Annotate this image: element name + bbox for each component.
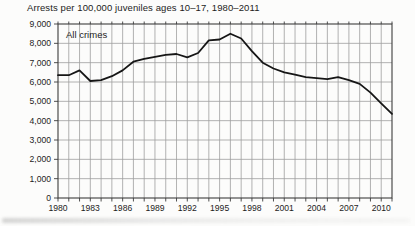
y-tick-label: 6,000 xyxy=(29,77,51,87)
y-tick-label: 7,000 xyxy=(29,58,51,68)
figure: Arrests per 100,000 juveniles ages 10–17… xyxy=(0,0,415,226)
y-tick-label: 3,000 xyxy=(29,135,51,145)
y-tick-label: 0 xyxy=(46,193,51,203)
y-tick-label: 4,000 xyxy=(29,116,51,126)
x-tick-label: 1995 xyxy=(210,203,229,213)
all-crimes-line xyxy=(58,34,392,114)
y-tick-label: 2,000 xyxy=(29,154,51,164)
x-tick-label: 2004 xyxy=(307,203,326,213)
x-tick-label: 2007 xyxy=(339,203,358,213)
line-chart: 01,0002,0003,0004,0005,0006,0007,0008,00… xyxy=(0,0,415,226)
series-label: All crimes xyxy=(66,29,107,40)
x-tick-label: 1980 xyxy=(48,203,67,213)
x-tick-label: 1998 xyxy=(242,203,261,213)
x-tick-label: 1992 xyxy=(178,203,197,213)
x-tick-label: 1989 xyxy=(145,203,164,213)
plot-frame xyxy=(58,24,392,198)
x-tick-label: 1986 xyxy=(113,203,132,213)
x-tick-label: 2010 xyxy=(372,203,391,213)
x-tick-label: 2001 xyxy=(275,203,294,213)
y-tick-label: 5,000 xyxy=(29,96,51,106)
scan-smudge-artifact xyxy=(2,218,410,223)
y-tick-label: 8,000 xyxy=(29,38,51,48)
y-tick-label: 9,000 xyxy=(29,19,51,29)
y-tick-label: 1,000 xyxy=(29,174,51,184)
x-tick-label: 1983 xyxy=(81,203,100,213)
